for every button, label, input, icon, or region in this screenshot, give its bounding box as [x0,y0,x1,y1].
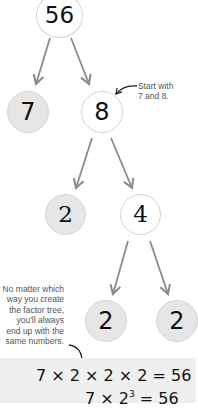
node-value: 4 [133,203,148,226]
node-value: 2 [98,309,113,333]
arrow-4-to-2-right [150,241,168,294]
equation-exponent-form: 7 × 23 = 56 [85,390,179,407]
node-prime-2-bottom-right: 2 [156,300,198,342]
annotation-line: No matter which [0,284,64,294]
node-value: 8 [94,100,109,124]
arrow-56-to-8 [71,38,89,84]
node-value: 2 [169,309,184,333]
annotation-start: Start with 7 and 8. [138,81,173,102]
arrow-8-to-2 [76,138,92,188]
annotation-line: 7 and 8. [138,91,173,101]
node-value: 2 [58,203,73,226]
annotation-arrow-start [116,86,137,94]
annotation-line: end up with the [0,326,64,336]
annotation-line: the factor tree, [0,305,64,315]
arrow-4-to-2-left [113,241,128,294]
node-prime-7: 7 [7,91,49,133]
annotation-line: Start with [138,81,173,91]
equation-base: 7 × 2 [85,389,129,408]
node-composite-8: 8 [81,91,123,133]
annotation-conclusion: No matter which way you create the facto… [0,284,64,346]
node-composite-4: 4 [120,194,161,235]
arrow-56-to-7 [36,38,50,84]
node-prime-2-bottom-left: 2 [85,300,127,342]
equation-rest: = 56 [135,389,179,408]
annotation-line: same numbers. [0,336,64,346]
annotation-line: you'll always [0,315,64,325]
arrow-8-to-4 [111,138,132,188]
node-prime-2: 2 [45,194,86,235]
node-value: 56 [45,4,74,27]
node-value: 7 [20,100,35,124]
equation-expanded: 7 × 2 × 2 × 2 = 56 [36,368,191,384]
annotation-line: way you create [0,294,64,304]
